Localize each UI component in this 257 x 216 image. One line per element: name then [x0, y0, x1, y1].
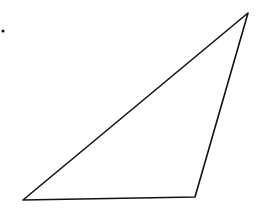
triangle-shape	[23, 13, 248, 200]
marker-dot	[1, 29, 4, 32]
triangle-diagram	[0, 0, 257, 216]
